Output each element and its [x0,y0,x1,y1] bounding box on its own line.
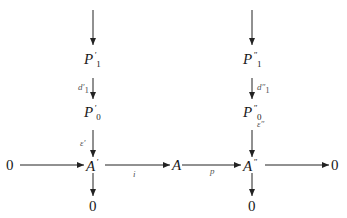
label-i: i [133,170,136,179]
node-zero-bottom-right: 0 [248,199,256,214]
node-a-prime: A′ [86,158,98,174]
label-d1-prime: d′1 [78,83,89,95]
label-d1-dprime: d″1 [257,83,270,95]
label-p: p [210,167,215,176]
node-p1-dprime: P″1 [243,51,261,69]
node-zero-bottom-left: 0 [89,199,97,214]
node-p1-prime: P′1 [84,51,101,69]
label-eps-dprime: ε″ [257,120,264,129]
node-a-dprime: A″ [243,158,257,174]
node-zero-left: 0 [6,158,14,173]
node-p0-prime: P′0 [84,104,101,122]
label-eps-prime: ε′ [80,139,86,148]
node-a: A [172,158,181,173]
node-zero-right: 0 [331,158,339,173]
arrows-layer [0,0,347,218]
